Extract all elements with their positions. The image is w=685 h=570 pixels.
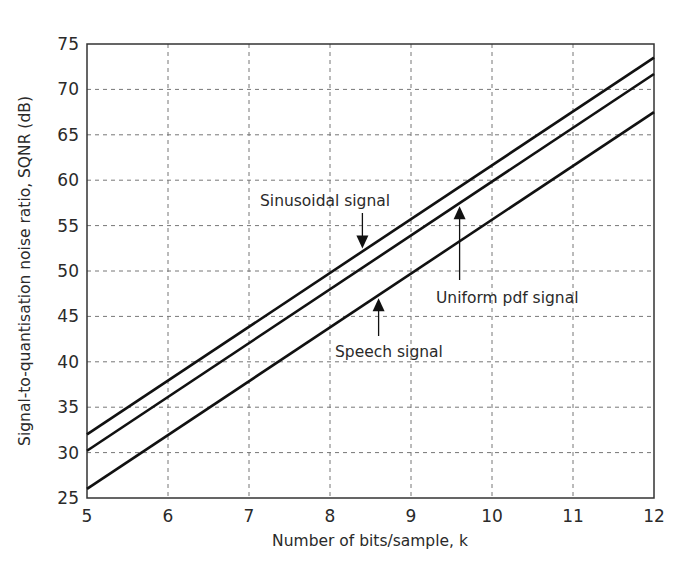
sinusoidal-arrowhead-icon — [356, 235, 368, 248]
series-line-uniform-pdf-signal — [87, 74, 654, 451]
y-axis-ticks: 2530354045505560657075 — [57, 34, 79, 508]
x-tick-label: 11 — [562, 506, 584, 526]
annotation-sinusoidal-signal: Sinusoidal signal — [260, 192, 390, 210]
annotation-speech-signal: Speech signal — [335, 343, 443, 361]
y-axis-label: Signal-to-quantisation noise ratio, SQNR… — [16, 96, 34, 446]
y-tick-label: 55 — [57, 216, 79, 236]
y-tick-label: 25 — [57, 488, 79, 508]
x-tick-label: 5 — [82, 506, 93, 526]
data-series — [87, 58, 654, 489]
x-tick-label: 9 — [406, 506, 417, 526]
y-tick-label: 60 — [57, 170, 79, 190]
y-tick-label: 70 — [57, 79, 79, 99]
y-tick-label: 35 — [57, 397, 79, 417]
y-tick-label: 65 — [57, 125, 79, 145]
x-tick-label: 8 — [325, 506, 336, 526]
x-axis-ticks: 56789101112 — [82, 506, 665, 526]
series-line-sinusoidal-signal — [87, 58, 654, 435]
y-tick-label: 45 — [57, 306, 79, 326]
x-axis-label: Number of bits/sample, k — [272, 532, 468, 550]
y-tick-label: 75 — [57, 34, 79, 54]
x-tick-label: 7 — [244, 506, 255, 526]
speech-arrowhead-icon — [373, 298, 385, 311]
x-tick-label: 12 — [643, 506, 665, 526]
annotations: Sinusoidal signalUniform pdf signalSpeec… — [260, 192, 578, 361]
y-tick-label: 50 — [57, 261, 79, 281]
y-tick-label: 30 — [57, 443, 79, 463]
x-tick-label: 10 — [481, 506, 503, 526]
sqnr-line-chart: 56789101112 2530354045505560657075 Sinus… — [0, 0, 685, 570]
uniform-arrowhead-icon — [454, 206, 466, 219]
x-tick-label: 6 — [163, 506, 174, 526]
grid-lines — [87, 44, 654, 498]
annotation-uniform-pdf-signal: Uniform pdf signal — [436, 289, 578, 307]
y-tick-label: 40 — [57, 352, 79, 372]
